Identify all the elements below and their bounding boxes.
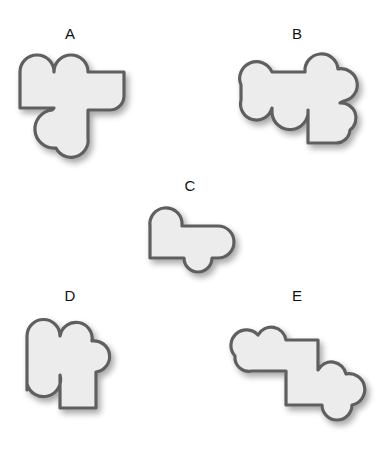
shape-d[interactable]: [27, 320, 110, 409]
shape-b[interactable]: [240, 54, 358, 143]
shape-a[interactable]: [20, 55, 124, 157]
shapes-canvas: [0, 0, 388, 450]
shape-e[interactable]: [231, 327, 365, 420]
shape-c[interactable]: [150, 208, 234, 272]
